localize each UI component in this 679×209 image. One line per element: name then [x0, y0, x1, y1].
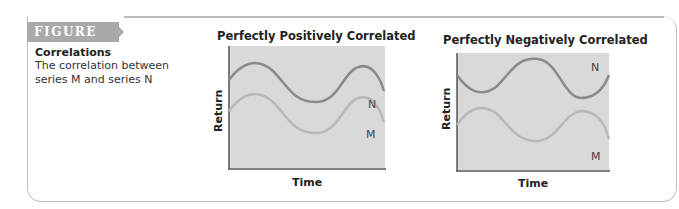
chart-positive: N M — [228, 46, 388, 170]
series-label-N: N — [368, 98, 376, 111]
x-axis-label-negative: Time — [518, 177, 548, 190]
frame-top-border — [124, 16, 664, 18]
y-axis-label-negative: Return — [440, 88, 453, 130]
figure-label: FIGURE 8.4 — [27, 22, 119, 42]
chart-title-negative: Perfectly Negatively Correlated — [443, 33, 648, 47]
series-label-M: M — [366, 128, 376, 141]
y-axis-label-positive: Return — [212, 90, 225, 132]
series-label-M: M — [591, 150, 601, 163]
caption-text: The correlation between series M and ser… — [35, 59, 195, 87]
series-label-N: N — [591, 61, 599, 74]
chart-title-positive: Perfectly Positively Correlated — [217, 29, 415, 43]
caption-title: Correlations — [35, 46, 111, 59]
chart-negative: N M — [456, 53, 614, 173]
x-axis-label-positive: Time — [292, 176, 322, 189]
